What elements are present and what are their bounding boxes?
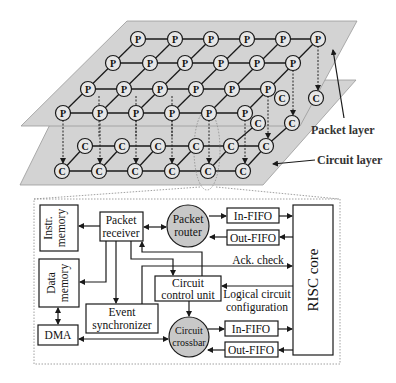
svg-text:C: C [168, 166, 175, 177]
svg-text:P: P [244, 34, 250, 45]
svg-text:P: P [133, 108, 139, 119]
svg-text:C: C [312, 93, 319, 104]
event-synchronizer-label-1: Event [109, 306, 137, 318]
svg-text:P: P [182, 58, 188, 69]
packet-layer-label: Packet layer [311, 123, 375, 137]
packet-router-label-1: Packet [173, 213, 204, 225]
packet-receiver-label-1: Packet [106, 214, 137, 226]
in-fifo-bottom-label: In-FIFO [232, 323, 270, 335]
packet-router-label-2: router [174, 226, 202, 238]
svg-text:C: C [204, 166, 211, 177]
svg-text:P: P [147, 58, 153, 69]
risc-core-label: RISC core [305, 248, 321, 311]
svg-text:P: P [254, 58, 260, 69]
svg-text:C: C [95, 166, 102, 177]
svg-text:P: P [169, 108, 175, 119]
svg-text:P: P [193, 84, 199, 95]
circuit-crossbar-label-2: crossbar [172, 337, 206, 348]
svg-text:C: C [81, 141, 88, 152]
svg-text:C: C [192, 141, 199, 152]
svg-text:P: P [85, 84, 91, 95]
svg-text:P: P [110, 58, 116, 69]
packet-plane [21, 21, 357, 126]
noc-architecture-diagram: C C C C C C C C C C C C C C C C P P P P … [0, 0, 396, 383]
svg-text:P: P [208, 34, 214, 45]
out-fifo-bottom-label: Out-FIFO [228, 344, 274, 356]
instr-memory-label-1: Instr. [42, 216, 54, 239]
svg-text:C: C [118, 141, 125, 152]
svg-text:C: C [58, 166, 65, 177]
in-fifo-top-label: In-FIFO [234, 210, 272, 222]
data-memory-label-2: memory [58, 264, 71, 303]
logical-config-label-2: configuration [226, 301, 288, 314]
svg-text:P: P [218, 58, 224, 69]
svg-text:P: P [242, 108, 248, 119]
packet-layer [21, 21, 357, 126]
svg-text:C: C [262, 141, 269, 152]
svg-text:P: P [157, 84, 163, 95]
circuit-control-unit-label-2: control unit [161, 289, 215, 301]
svg-text:P: P [121, 84, 127, 95]
packet-receiver-label-2: receiver [102, 227, 139, 239]
svg-text:P: P [290, 58, 296, 69]
svg-text:C: C [227, 141, 234, 152]
circuit-crossbar-label-1: Circuit [175, 325, 203, 336]
svg-text:C: C [239, 166, 246, 177]
svg-text:C: C [288, 118, 295, 129]
circuit-layer-label: Circuit layer [317, 153, 383, 167]
circuit-control-unit-label-1: Circuit [172, 277, 205, 289]
ack-check-label: Ack. check [232, 254, 284, 266]
logical-config-label-1: Logical circuit [223, 288, 291, 301]
out-fifo-top-label: Out-FIFO [230, 232, 276, 244]
data-memory-label-1: Data [45, 272, 57, 294]
svg-text:C: C [278, 93, 285, 104]
tile-block-diagram: Instr. memory Data memory DMA Packet rec… [38, 205, 333, 357]
instr-memory-label-2: memory [55, 209, 68, 248]
svg-text:P: P [97, 108, 103, 119]
svg-text:P: P [280, 34, 286, 45]
svg-text:P: P [135, 34, 141, 45]
event-synchronizer-label-2: synchronizer [92, 319, 152, 332]
svg-text:C: C [131, 166, 138, 177]
svg-text:P: P [229, 84, 235, 95]
svg-text:P: P [60, 108, 66, 119]
svg-text:C: C [154, 141, 161, 152]
dma-label: DMA [45, 329, 73, 341]
svg-text:P: P [315, 34, 321, 45]
svg-text:P: P [206, 108, 212, 119]
svg-text:P: P [265, 84, 271, 95]
svg-text:C: C [254, 118, 261, 129]
svg-text:P: P [172, 34, 178, 45]
